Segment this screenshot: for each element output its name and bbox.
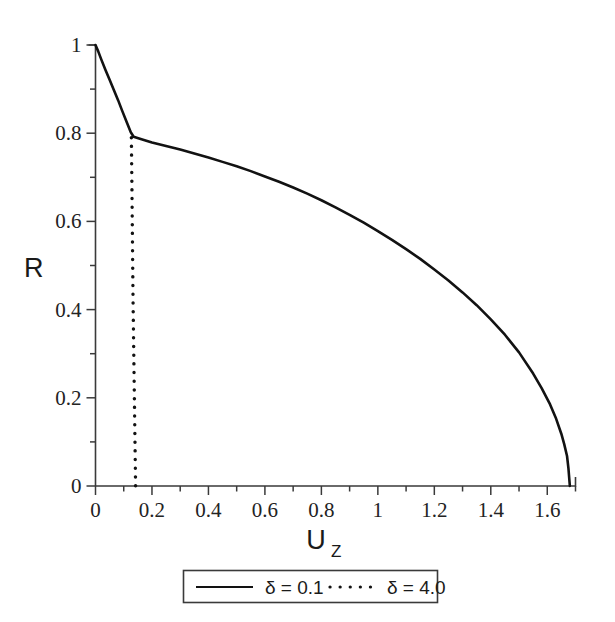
y-tick-label: 1: [71, 33, 82, 57]
chart-figure: R 00.20.40.60.81 00.20.40.60.811.21.41.6…: [0, 0, 615, 622]
x-tick-label: 0: [90, 498, 101, 522]
x-tick-label: 1.4: [478, 498, 505, 522]
x-tick-label: 0.4: [195, 498, 222, 522]
chart-svg: R 00.20.40.60.81 00.20.40.60.811.21.41.6…: [0, 0, 615, 622]
x-tick-label: 0.6: [252, 498, 278, 522]
x-tick-label: 1.2: [421, 498, 447, 522]
x-tick-label: 1: [373, 498, 384, 522]
x-tick-label: 0.2: [139, 498, 165, 522]
y-tick-label: 0.4: [55, 298, 82, 322]
x-axis-title-subscript: Z: [331, 542, 341, 561]
y-tick-label: 0.8: [55, 121, 81, 145]
y-axis-title: R: [24, 253, 44, 283]
legend-label-1: δ = 4.0: [387, 577, 446, 598]
x-axis-tick-labels: 00.20.40.60.811.21.41.6: [90, 498, 560, 522]
y-tick-label: 0.6: [55, 209, 81, 233]
x-tick-label: 1.6: [534, 498, 560, 522]
x-axis-title: U: [306, 525, 326, 555]
x-tick-label: 0.8: [308, 498, 334, 522]
y-tick-label: 0: [71, 474, 82, 498]
y-tick-label: 0.2: [55, 386, 81, 410]
legend-label-0: δ = 0.1: [265, 577, 324, 598]
